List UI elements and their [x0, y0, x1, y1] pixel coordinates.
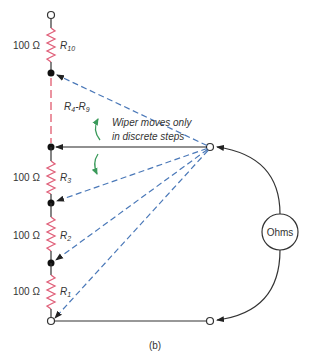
r2-value-label: 100 Ω	[13, 230, 40, 241]
r3-value-label: 100 Ω	[13, 172, 40, 183]
annotation-line-2: in discrete steps	[112, 131, 184, 142]
resistor-r3	[47, 161, 55, 194]
step-up-arrow-icon	[95, 119, 100, 140]
ohmmeter-label: Ohms	[267, 227, 294, 238]
resistor-r1	[47, 275, 55, 309]
wiper-terminal	[207, 144, 214, 151]
r1-value-label: 100 Ω	[13, 286, 40, 297]
r2-name-label: R2	[60, 230, 71, 242]
wiper-position-r1	[55, 151, 208, 319]
resistor-r2	[47, 217, 55, 251]
ohmmeter-lead-bottom	[217, 250, 280, 320]
potentiometer-diagram: 100 Ω 100 Ω 100 Ω 100 Ω R10 R3 R2 R1 R4-…	[0, 0, 311, 359]
range-label: R4-R9	[64, 101, 90, 113]
r1-name-label: R1	[60, 286, 71, 298]
figure-caption: (b)	[149, 340, 161, 351]
r10-value-label: 100 Ω	[13, 40, 40, 51]
r3-name-label: R3	[60, 172, 71, 184]
wiper-position-r2	[56, 150, 208, 261]
ohmmeter-lead-top	[217, 147, 280, 214]
r10-name-label: R10	[60, 40, 75, 52]
annotation-line-1: Wiper moves only	[112, 117, 192, 128]
bottom-terminal	[48, 318, 55, 325]
resistor-r10	[47, 28, 55, 62]
wiper-position-r3	[57, 149, 207, 202]
meter-terminal-bottom	[207, 318, 214, 325]
tap-node-r10	[48, 70, 55, 77]
top-terminal	[48, 12, 55, 19]
step-down-arrow-icon	[95, 154, 98, 174]
